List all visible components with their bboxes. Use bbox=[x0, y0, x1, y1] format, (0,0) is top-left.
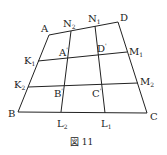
label-m2: M2 bbox=[140, 76, 154, 88]
label-a: A bbox=[40, 23, 49, 34]
line-n2-l2 bbox=[61, 31, 71, 112]
label-k2: K2 bbox=[14, 79, 25, 91]
line-n1-l1 bbox=[95, 26, 105, 113]
label-c: C bbox=[150, 111, 158, 122]
label-d: D bbox=[120, 12, 128, 23]
label-l2: L2 bbox=[57, 118, 68, 130]
quadrilateral-abcd bbox=[18, 22, 147, 113]
label-b-prime: B' bbox=[54, 87, 63, 99]
line-k2-m2 bbox=[28, 83, 138, 87]
line-k1-m1 bbox=[38, 52, 127, 61]
figure-caption: 図 11 bbox=[70, 137, 93, 147]
label-n2: N2 bbox=[63, 18, 76, 30]
label-b: B bbox=[8, 108, 15, 119]
label-k1: K1 bbox=[24, 55, 35, 67]
label-d-prime: D' bbox=[97, 42, 107, 54]
label-a-prime: A' bbox=[58, 46, 68, 58]
label-l1: L1 bbox=[101, 118, 111, 130]
label-m1: M1 bbox=[129, 46, 143, 58]
label-c-prime: C' bbox=[92, 87, 102, 99]
label-n1: N1 bbox=[88, 13, 101, 25]
quadrilateral-diagram: A D B C N2 N1 K1 K2 M1 M2 L2 L1 A' D' B'… bbox=[0, 0, 167, 155]
